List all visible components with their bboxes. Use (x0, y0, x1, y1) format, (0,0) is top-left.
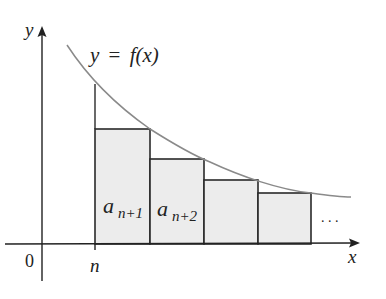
rectangle-4 (258, 193, 311, 244)
origin-label: 0 (25, 251, 34, 271)
x-axis-label: x (347, 246, 357, 267)
curve-label: y = f(x) (88, 43, 159, 67)
rect-label-base: a (103, 193, 114, 218)
curve-label-eq: = (109, 43, 121, 67)
y-axis-label: y (23, 19, 34, 40)
rectangle-a-n-plus-1 (95, 129, 150, 244)
curve-label-rhs: f(x) (130, 43, 159, 67)
rectangle-3 (204, 180, 258, 244)
rect-label-base: a (157, 196, 168, 221)
integral-test-diagram: y x 0 n y = f(x) a n+1 a n+2 . . . (0, 0, 386, 299)
curve-label-lhs: y (88, 43, 100, 67)
n-tick-label: n (90, 255, 100, 276)
rect-label-subscript: n+2 (172, 208, 198, 224)
rect-label-subscript: n+1 (118, 205, 143, 221)
ellipsis: . . . (321, 210, 339, 225)
